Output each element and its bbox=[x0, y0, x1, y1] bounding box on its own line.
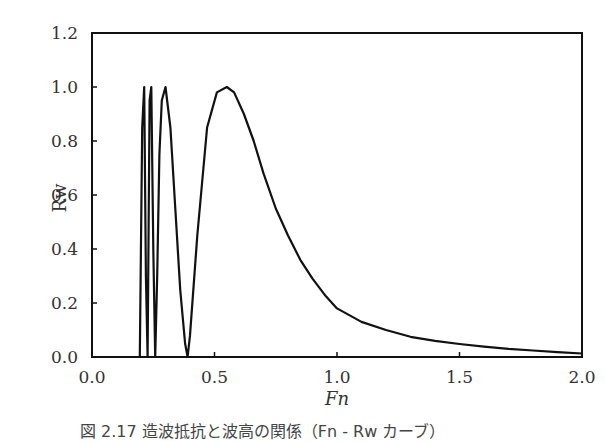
x-tick-label: 1.5 bbox=[446, 367, 473, 387]
x-axis-label: Fn bbox=[324, 388, 349, 409]
rw-curve bbox=[140, 87, 582, 357]
plot-area: 0.00.20.40.60.81.01.2 0.00.51.01.52.0 Fn… bbox=[49, 23, 596, 409]
x-tick-label: 1.0 bbox=[323, 367, 350, 387]
y-tick-label: 1.2 bbox=[51, 23, 78, 43]
x-tick-label: 2.0 bbox=[568, 367, 595, 387]
y-tick-label: 1.0 bbox=[51, 77, 78, 97]
y-axis-label: Rw bbox=[49, 183, 70, 213]
y-tick-label: 0.4 bbox=[51, 239, 78, 259]
y-tick-label: 0.2 bbox=[51, 293, 78, 313]
y-tick-label: 0.0 bbox=[51, 347, 78, 367]
y-tick-label: 0.8 bbox=[51, 131, 78, 151]
x-tick-label: 0.0 bbox=[78, 367, 105, 387]
x-tick-label: 0.5 bbox=[201, 367, 228, 387]
figure-caption: 図 2.17 造波抵抗と波高の関係（Fn - Rw カーブ） bbox=[80, 418, 600, 442]
